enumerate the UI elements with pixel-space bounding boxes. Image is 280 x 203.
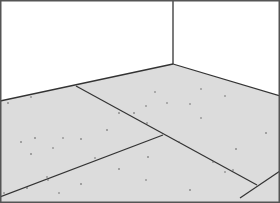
- room-drawing: [0, 0, 280, 203]
- room-illustration: [0, 0, 280, 203]
